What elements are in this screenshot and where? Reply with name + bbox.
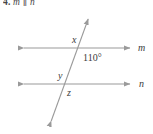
angle-label-110: 110°: [83, 53, 102, 63]
geometry-figure: 4. m ∥ n x 110° y z m n: [0, 0, 153, 134]
line-label-m: m: [138, 43, 145, 53]
line-label-n: n: [139, 79, 144, 89]
angle-label-x: x: [72, 35, 76, 45]
angle-label-y: y: [58, 71, 62, 81]
transversal-line: [51, 19, 88, 121]
angle-label-z: z: [67, 88, 71, 98]
diagram-canvas: [0, 0, 153, 134]
